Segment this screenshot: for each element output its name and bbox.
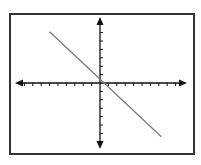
- axes: [15, 17, 187, 149]
- x-axis-left-arrow-icon: [15, 80, 23, 87]
- coordinate-plane: [0, 0, 201, 165]
- x-axis-right-arrow-icon: [179, 80, 187, 87]
